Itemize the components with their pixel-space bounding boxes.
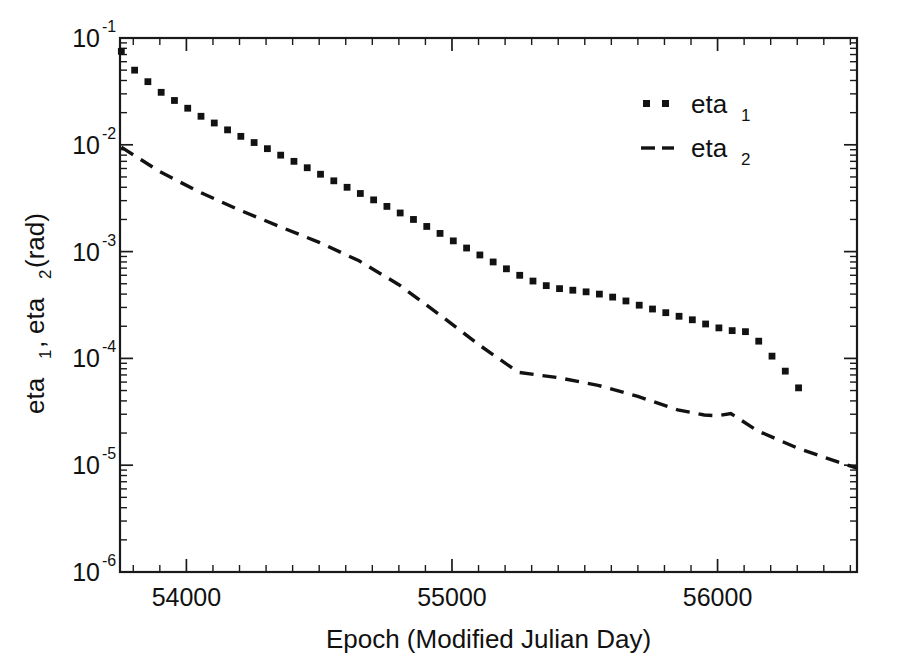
chart-background [0,0,899,661]
legend-label: eta [691,89,728,119]
x-tick-label: 55000 [417,583,487,611]
figure-container: 10-110-210-310-410-510-6 540005500056000… [0,0,899,661]
data-point-marker [264,145,271,152]
y-tick-label: 10 [72,24,100,52]
y-axis-title-segment: eta [20,297,50,334]
y-tick-label: 10 [72,451,100,479]
y-tick-exponent: -5 [102,445,116,462]
y-tick-label: 10 [72,238,100,266]
data-point-marker [716,325,723,332]
data-point-marker [636,302,643,309]
data-point-marker [782,368,789,375]
x-tick-label: 54000 [152,583,222,611]
y-axis-title-segment: (rad) [20,213,50,268]
data-point-marker [662,309,669,316]
legend-marker-dotted [662,100,669,107]
y-tick-exponent: -1 [102,18,116,35]
data-point-marker [224,126,231,133]
data-point-marker [131,67,138,74]
data-point-marker [689,316,696,323]
y-tick-label: 10 [72,131,100,159]
data-point-marker [450,237,457,244]
data-point-marker [609,294,616,301]
data-point-marker [410,216,417,223]
y-tick-exponent: -3 [102,232,116,249]
data-point-marker [676,313,683,320]
y-axis-title-segment: eta [20,377,50,414]
x-tick-label: 56000 [683,583,753,611]
data-point-marker [503,265,510,272]
data-point-marker [171,97,178,104]
y-axis-title-segment: , [20,341,50,348]
data-point-marker [211,120,218,127]
y-axis-title-segment: 2 [36,270,55,279]
data-point-marker [649,306,656,313]
data-point-marker [795,384,802,391]
data-point-marker [543,282,550,289]
data-point-marker [317,171,324,178]
data-point-marker [198,113,205,120]
data-point-marker [344,184,351,191]
data-point-marker [596,291,603,298]
data-point-marker [384,203,391,210]
data-point-marker [330,177,337,184]
data-point-marker [158,89,165,96]
y-tick-exponent: -6 [102,552,116,569]
data-point-marker [476,252,483,259]
data-point-marker [516,272,523,279]
data-point-marker [237,133,244,140]
data-point-marker [437,230,444,237]
y-tick-label: 10 [72,558,100,586]
data-point-marker [251,139,258,146]
data-point-marker [729,327,736,334]
legend-label-subscript: 1 [741,106,750,125]
data-point-marker [304,164,311,171]
data-point-marker [769,353,776,360]
data-point-marker [277,152,284,159]
legend-label-subscript: 2 [741,150,750,169]
data-point-marker [569,287,576,294]
data-point-marker [118,48,125,55]
y-tick-exponent: -2 [102,125,116,142]
data-point-marker [370,196,377,203]
data-point-marker [463,245,470,252]
log-line-chart: 10-110-210-310-410-510-6 540005500056000… [0,0,899,661]
legend-label: eta [691,133,728,163]
data-point-marker [742,328,749,335]
data-point-marker [490,259,497,266]
data-point-marker [291,158,298,165]
data-point-marker [144,78,151,85]
data-point-marker [423,223,430,230]
data-point-marker [556,285,563,292]
data-point-marker [184,105,191,112]
data-point-marker [397,210,404,217]
x-axis-title: Epoch (Modified Julian Day) [326,624,651,654]
data-point-marker [702,321,709,328]
data-point-marker [357,190,364,197]
data-point-marker [583,288,590,295]
y-tick-exponent: -4 [102,338,116,355]
data-point-marker [755,338,762,345]
y-axis-title-segment: 1 [36,350,55,359]
legend-marker-dotted [643,100,650,107]
y-axis-title: eta1, eta2 (rad) [20,213,55,414]
y-tick-label: 10 [72,344,100,372]
data-point-marker [530,278,537,285]
data-point-marker [623,298,630,305]
